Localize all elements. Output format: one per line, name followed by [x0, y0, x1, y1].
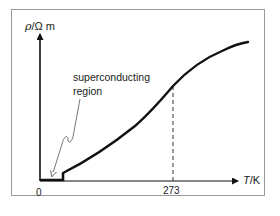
y-axis-label: ρ/Ω m	[25, 21, 55, 32]
rho-unit: /Ω m	[31, 20, 55, 32]
t-unit: /K	[250, 174, 260, 186]
superconducting-annotation: superconducting region	[73, 70, 150, 98]
superconducting-segment	[40, 173, 63, 180]
annotation-pointer	[52, 99, 80, 176]
tick-label-273: 273	[163, 186, 180, 196]
annotation-line-2: region	[73, 84, 150, 98]
resistivity-plot	[0, 0, 280, 216]
resistivity-curve	[63, 42, 248, 173]
origin-label: 0	[36, 188, 42, 198]
annotation-line-1: superconducting	[73, 70, 150, 84]
x-axis-label: T/K	[243, 175, 260, 186]
t-symbol: T	[243, 174, 250, 186]
